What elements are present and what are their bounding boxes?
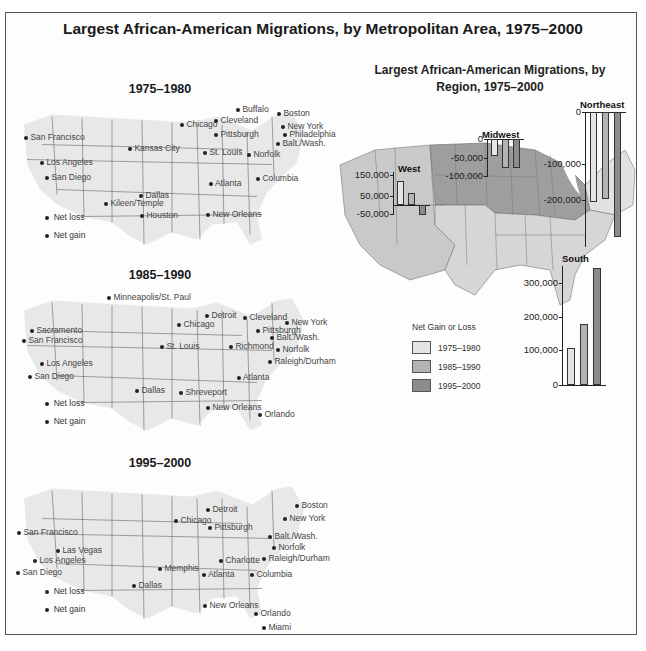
legend-net-gain: Net gain [45, 604, 85, 614]
legend-title: Net Gain or Loss [412, 322, 481, 332]
city-marker: Orlando [258, 409, 295, 419]
city-dot-icon [237, 376, 241, 380]
city-dot-icon [33, 559, 37, 563]
legend-dot-icon [45, 234, 49, 238]
legend-item-1995-2000: 1995–2000 [412, 376, 481, 395]
city-dot-icon [270, 336, 274, 340]
city-marker: Houston [140, 210, 178, 220]
city-dot-icon [272, 546, 276, 550]
city-marker: Minneapolis/St. Paul [107, 292, 191, 302]
city-marker: Charlotte [219, 555, 260, 565]
legend-item-1975-1980: 1975–1980 [412, 338, 481, 357]
city-dot-icon [17, 531, 21, 535]
city-dot-icon [277, 112, 281, 116]
bar-northeast-1995–2000 [614, 112, 621, 237]
legend-dot-icon [45, 420, 49, 424]
bar-midwest-1985–1990 [502, 139, 509, 168]
city-dot-icon [45, 176, 49, 180]
city-marker: Norfolk [247, 149, 280, 159]
city-dot-icon [132, 584, 136, 588]
legend-net-loss: Net loss [45, 398, 84, 408]
city-dot-icon [22, 339, 26, 343]
city-dot-icon [40, 362, 44, 366]
city-dot-icon [206, 406, 210, 410]
city-dot-icon [203, 604, 207, 608]
city-dot-icon [30, 329, 34, 333]
bar-midwest-1995–2000 [513, 139, 520, 168]
city-dot-icon [214, 133, 218, 137]
city-marker: Detroit [206, 504, 237, 514]
city-marker: New Orleans [206, 402, 262, 412]
legend-item-1985-1990: 1985–1990 [412, 357, 481, 376]
bar-chart-title-west: West [398, 163, 421, 174]
city-marker: San Diego [45, 172, 91, 182]
city-dot-icon [158, 567, 162, 571]
city-dot-icon [219, 559, 223, 563]
legend-net-gain: Net gain [45, 416, 85, 426]
bar-south-1975–1980 [567, 348, 575, 385]
city-marker: Balt./Wash. [276, 138, 326, 148]
city-marker: Los Angeles [40, 358, 93, 368]
city-marker: Kansas City [128, 143, 180, 153]
legend-dot-icon [45, 608, 49, 612]
city-dot-icon [283, 517, 287, 521]
y-tick-mark [559, 317, 563, 318]
y-tick-mark [390, 196, 394, 197]
city-marker: Norfolk [276, 344, 309, 354]
city-dot-icon [206, 213, 210, 217]
city-marker: Memphis [158, 563, 199, 573]
y-tick-mark [559, 385, 563, 386]
city-dot-icon [180, 123, 184, 127]
bar-chart-title-northeast: Northeast [580, 99, 624, 110]
legend-net-gain: Net gain [45, 230, 85, 240]
city-marker: Raleigh/Durham [268, 356, 336, 366]
city-marker: Kileen/Temple [104, 198, 164, 208]
bar-northeast-1985–1990 [602, 112, 609, 199]
legend-swatch-1995-2000 [412, 379, 431, 392]
city-dot-icon [268, 535, 272, 539]
y-tick-mark [390, 214, 394, 215]
y-tick-label: 150,000 [331, 169, 389, 180]
y-tick-mark [582, 112, 586, 113]
city-marker: St. Louis [160, 341, 199, 351]
city-dot-icon [104, 202, 108, 206]
city-dot-icon [140, 214, 144, 218]
city-dot-icon [135, 389, 139, 393]
y-tick-mark [559, 350, 563, 351]
city-dot-icon [160, 345, 164, 349]
city-dot-icon [247, 153, 251, 157]
city-marker: Boston [295, 500, 328, 510]
baseline-south [562, 385, 606, 386]
city-marker: Orlando [254, 608, 291, 618]
city-dot-icon [268, 360, 272, 364]
city-marker: San Francisco [24, 132, 85, 142]
y-tick-mark [390, 175, 394, 176]
city-dot-icon [128, 147, 132, 151]
city-marker: Columbia [256, 173, 298, 183]
city-dot-icon [236, 108, 240, 112]
chart-legend: Net Gain or Loss 1975–1980 1985–1990 199… [412, 322, 481, 395]
city-dot-icon [250, 573, 254, 577]
city-dot-icon [174, 519, 178, 523]
y-tick-mark [484, 158, 488, 159]
region-map-title: Largest African-American Migrations, by … [350, 62, 630, 96]
city-marker: Sacramento [30, 325, 82, 335]
legend-dot-icon [45, 590, 49, 594]
city-marker: Dallas [132, 580, 162, 590]
city-dot-icon [24, 136, 28, 140]
city-dot-icon [28, 375, 32, 379]
city-marker: Cleveland [214, 115, 258, 125]
city-marker: Richmond [229, 341, 274, 351]
city-dot-icon [262, 626, 266, 630]
city-marker: Pittsburgh [208, 522, 253, 532]
city-dot-icon [258, 413, 262, 417]
y-axis-west [393, 172, 394, 214]
y-tick-label: 0 [425, 133, 483, 144]
legend-swatch-1985-1990 [412, 360, 431, 373]
city-dot-icon [256, 329, 260, 333]
legend-net-loss: Net loss [45, 586, 84, 596]
y-tick-label: 200,000 [500, 311, 558, 322]
y-tick-label: -200,000 [523, 194, 581, 205]
city-dot-icon [276, 142, 280, 146]
city-marker: San Francisco [17, 527, 78, 537]
